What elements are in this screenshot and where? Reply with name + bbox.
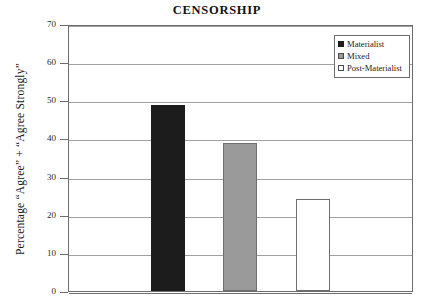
legend-swatch-materialist-icon <box>338 41 344 47</box>
y-tick-mark-60 <box>60 63 68 64</box>
legend-item-materialist[interactable]: Materialist <box>338 38 407 50</box>
bar-mixed[interactable] <box>223 143 257 291</box>
legend-swatch-post-materialist-icon <box>338 65 344 71</box>
gridline-50 <box>69 102 412 103</box>
y-tick-label-20: 20 <box>28 211 56 220</box>
legend-item-mixed[interactable]: Mixed <box>338 50 407 62</box>
y-tick-label-0: 0 <box>28 287 56 296</box>
legend-item-post-materialist[interactable]: Post-Materialist <box>338 62 407 74</box>
y-tick-label-60: 60 <box>28 58 56 67</box>
chart-title: CENSORSHIP <box>0 3 434 18</box>
bar-materialist[interactable] <box>151 105 185 291</box>
y-tick-mark-50 <box>60 101 68 102</box>
y-tick-label-10: 10 <box>28 249 56 258</box>
y-tick-mark-10 <box>60 254 68 255</box>
y-tick-label-30: 30 <box>28 173 56 182</box>
y-tick-mark-70 <box>60 25 68 26</box>
gridline-40 <box>69 140 412 141</box>
legend-label-materialist: Materialist <box>347 40 384 49</box>
legend-label-post-materialist: Post-Materialist <box>347 64 402 73</box>
legend-swatch-mixed-icon <box>338 53 344 59</box>
y-tick-label-70: 70 <box>28 20 56 29</box>
y-axis-title: Percentage “Agree” + “Agree Strongly” <box>10 25 30 292</box>
y-tick-mark-30 <box>60 178 68 179</box>
y-tick-mark-20 <box>60 216 68 217</box>
y-tick-label-40: 40 <box>28 134 56 143</box>
legend-label-mixed: Mixed <box>347 52 369 61</box>
legend: Materialist Mixed Post-Materialist <box>334 35 410 78</box>
bar-post-materialist[interactable] <box>296 199 330 291</box>
y-tick-label-50: 50 <box>28 96 56 105</box>
y-tick-mark-40 <box>60 139 68 140</box>
gridline-0 <box>69 293 412 294</box>
gridline-70 <box>69 26 412 27</box>
y-tick-mark-0 <box>60 292 68 293</box>
chart-container: CENSORSHIP Percentage “Agree” + “Agree S… <box>0 0 434 308</box>
y-axis-title-text: Percentage “Agree” + “Agree Strongly” <box>14 62 26 254</box>
